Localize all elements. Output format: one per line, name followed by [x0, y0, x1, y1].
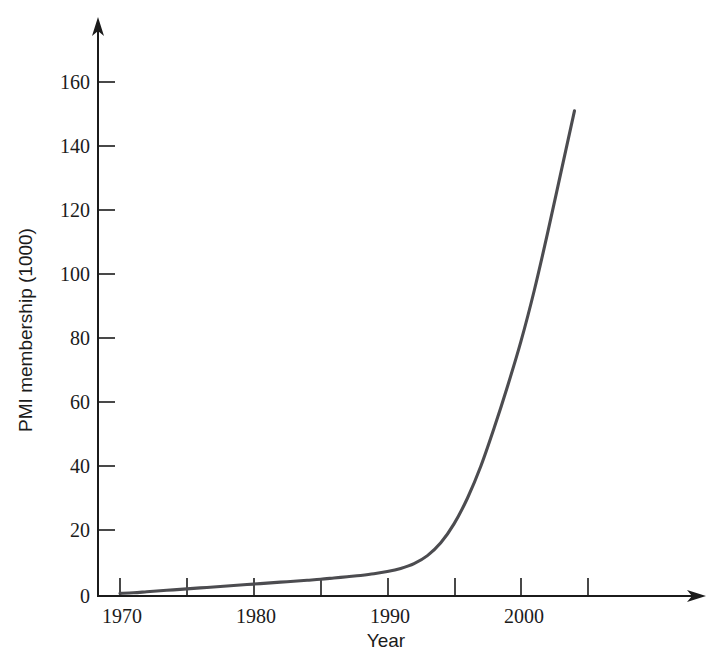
y-tick-label-60: 60 [70, 391, 90, 413]
y-tick-label-100: 100 [60, 263, 90, 285]
y-axis [92, 17, 104, 597]
x-tick-label-1980: 1980 [236, 605, 276, 627]
x-tick-marks [120, 578, 588, 596]
y-tick-label-40: 40 [70, 455, 90, 477]
y-tick-label-120: 120 [60, 199, 90, 221]
line-chart-svg: 0 20 40 60 80 100 120 140 160 1970 1980 … [0, 0, 718, 660]
x-axis [98, 590, 706, 602]
y-tick-marks [98, 82, 115, 530]
data-series-line [120, 111, 574, 594]
x-tick-label-2000: 2000 [504, 605, 544, 627]
y-tick-label-20: 20 [70, 519, 90, 541]
y-tick-label-160: 160 [60, 71, 90, 93]
x-tick-label-1970: 1970 [102, 605, 142, 627]
x-axis-title: Year [367, 630, 406, 651]
y-tick-label-80: 80 [70, 327, 90, 349]
y-axis-title: PMI membership (1000) [15, 228, 36, 432]
x-tick-label-1990: 1990 [370, 605, 410, 627]
y-tick-label-0: 0 [80, 585, 90, 607]
chart-container: 0 20 40 60 80 100 120 140 160 1970 1980 … [0, 0, 718, 660]
y-tick-label-140: 140 [60, 135, 90, 157]
